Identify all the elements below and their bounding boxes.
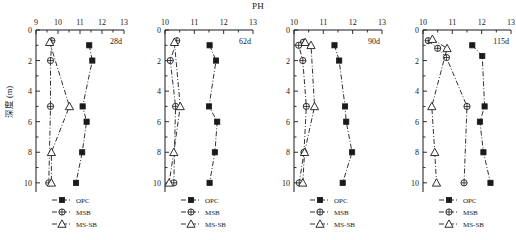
marker-opc xyxy=(206,104,211,109)
panel-tag-90d: 90d xyxy=(368,37,380,46)
legend-label-OPC: OPC xyxy=(205,197,219,205)
panel-plot-90d: 10111213024681090dOPCMSBMS-SB xyxy=(258,0,387,240)
y-tick-label: 8 xyxy=(157,148,161,157)
x-tick-label: 12 xyxy=(349,18,357,27)
series-line-OPC xyxy=(209,45,217,183)
marker-opc xyxy=(349,150,354,155)
x-tick-label: 13 xyxy=(120,18,128,27)
marker-mssb xyxy=(432,179,440,186)
marker-mssb xyxy=(431,148,439,155)
series-line-MS-SB xyxy=(432,39,447,183)
marker-opc xyxy=(207,43,212,48)
legend-label-MS-SB: MS-SB xyxy=(334,221,355,229)
y-tick-label: 6 xyxy=(415,118,419,127)
x-tick-label: 11 xyxy=(190,18,198,27)
marker-opc xyxy=(212,150,217,155)
marker-opc xyxy=(188,197,193,202)
y-tick-label: 0 xyxy=(286,26,290,35)
marker-opc xyxy=(470,43,475,48)
y-tick-label: 2 xyxy=(415,57,419,66)
y-tick-label: 2 xyxy=(286,57,290,66)
x-tick-label: 10 xyxy=(419,18,427,27)
series-line-OPC xyxy=(472,45,490,183)
panel-plot-28d: 910111213024681028dOPCMSBMS-SB xyxy=(0,0,129,240)
marker-opc xyxy=(215,119,220,124)
legend-label-MSB: MSB xyxy=(205,209,220,217)
y-tick-label: 6 xyxy=(286,118,290,127)
panel-62d: 10111213024681062dOPCMSBMS-SB xyxy=(129,0,258,240)
marker-opc xyxy=(332,43,337,48)
x-tick-label: 12 xyxy=(98,18,106,27)
series-MSB xyxy=(296,39,310,186)
legend-label-MS-SB: MS-SB xyxy=(205,221,226,229)
marker-mssb xyxy=(170,148,178,155)
y-tick-label: 8 xyxy=(28,148,32,157)
y-tick-label: 4 xyxy=(28,87,32,96)
axis-lines xyxy=(165,30,253,192)
legend: OPCMSBMS-SB xyxy=(52,197,97,229)
legend-label-MSB: MSB xyxy=(334,209,349,217)
x-tick-label: 13 xyxy=(378,18,386,27)
y-tick-label: 0 xyxy=(157,26,161,35)
panel-tag-115d: 115d xyxy=(493,37,509,46)
y-tick-label: 10 xyxy=(24,179,32,188)
marker-opc xyxy=(342,104,347,109)
marker-opc xyxy=(340,180,345,185)
panel-tag-62d: 62d xyxy=(239,37,251,46)
series-MSB xyxy=(46,38,55,186)
marker-opc xyxy=(480,53,485,58)
marker-mssb xyxy=(428,102,436,109)
x-tick-label: 12 xyxy=(220,18,228,27)
series-OPC xyxy=(73,43,94,186)
y-tick-label: 4 xyxy=(157,87,161,96)
y-tick-label: 0 xyxy=(28,26,32,35)
y-tick-label: 6 xyxy=(28,118,32,127)
y-tick-label: 0 xyxy=(415,26,419,35)
panel-90d: 10111213024681090dOPCMSBMS-SB xyxy=(258,0,387,240)
marker-opc xyxy=(84,119,89,124)
y-tick-label: 6 xyxy=(157,118,161,127)
marker-opc xyxy=(477,119,482,124)
legend: OPCMSBMS-SB xyxy=(439,197,484,229)
legend-label-OPC: OPC xyxy=(334,197,348,205)
marker-opc xyxy=(213,58,218,63)
x-tick-label: 10 xyxy=(161,18,169,27)
y-tick-label: 8 xyxy=(415,148,419,157)
marker-opc xyxy=(59,197,64,202)
marker-opc xyxy=(482,104,487,109)
marker-opc xyxy=(481,150,486,155)
y-tick-label: 4 xyxy=(415,87,419,96)
marker-opc xyxy=(90,58,95,63)
series-OPC xyxy=(332,43,355,186)
legend: OPCMSBMS-SB xyxy=(310,197,355,229)
panel-tag-28d: 28d xyxy=(110,37,122,46)
panel-plot-62d: 10111213024681062dOPCMSBMS-SB xyxy=(129,0,258,240)
marker-opc xyxy=(344,119,349,124)
marker-opc xyxy=(73,180,78,185)
legend-label-MSB: MSB xyxy=(76,209,91,217)
y-tick-label: 2 xyxy=(157,57,161,66)
x-tick-label: 11 xyxy=(448,18,456,27)
legend-label-MS-SB: MS-SB xyxy=(463,221,484,229)
y-tick-label: 4 xyxy=(286,87,290,96)
marker-opc xyxy=(337,58,342,63)
legend-label-OPC: OPC xyxy=(463,197,477,205)
series-MSB xyxy=(167,38,180,186)
panel-plot-115d: 101112130246810115dOPCMSBMS-SB xyxy=(387,0,516,240)
legend-label-OPC: OPC xyxy=(76,197,90,205)
marker-mssb xyxy=(65,102,73,109)
legend-label-MS-SB: MS-SB xyxy=(76,221,97,229)
panel-28d: 910111213024681028dOPCMSBMS-SB xyxy=(0,0,129,240)
marker-mssb xyxy=(47,148,55,155)
series-line-MSB xyxy=(428,41,467,183)
y-tick-label: 10 xyxy=(282,179,290,188)
series-line-OPC xyxy=(334,45,352,183)
marker-opc xyxy=(317,197,322,202)
x-tick-label: 12 xyxy=(478,18,486,27)
marker-mssb xyxy=(443,44,451,51)
legend: OPCMSBMS-SB xyxy=(181,197,226,229)
y-tick-label: 2 xyxy=(28,57,32,66)
x-tick-label: 10 xyxy=(290,18,298,27)
x-tick-label: 11 xyxy=(319,18,327,27)
axis-lines xyxy=(294,30,382,192)
